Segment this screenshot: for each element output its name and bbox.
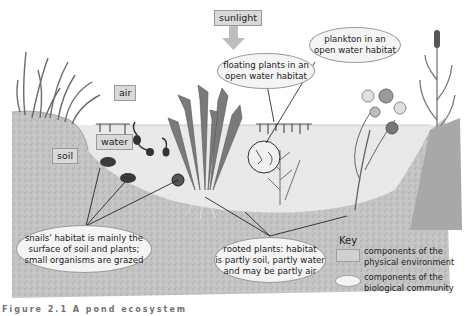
- key-physical-text: components of the physical environment: [364, 246, 454, 268]
- key-biological-swatch: [335, 275, 361, 287]
- snails-callout: snails' habitat is mainly the surface of…: [16, 225, 152, 273]
- key-title: Key: [339, 235, 357, 246]
- soil-label: soil: [52, 148, 78, 164]
- floating-plants-text: floating plants in an open water habitat: [223, 60, 309, 82]
- water-label: water: [96, 134, 133, 150]
- plankton-text: plankton in an open water habitat: [314, 34, 396, 56]
- sunlight-arrow: [222, 25, 245, 50]
- plankton-magnifier: [248, 141, 280, 173]
- key-physical-swatch: [336, 249, 360, 262]
- rooted-plants-text: rooted plants: habitat is partly soil, p…: [215, 244, 325, 277]
- plankton-callout: plankton in an open water habitat: [309, 27, 401, 63]
- figure-caption: Figure 2.1 A pond ecosystem: [2, 305, 187, 314]
- key-biological-text: components of the biological community: [364, 272, 454, 294]
- rooted-plants-callout: rooted plants: habitat is partly soil, p…: [214, 237, 326, 283]
- sunlight-label: sunlight: [214, 10, 262, 26]
- floating-plants-callout: floating plants in an open water habitat: [217, 53, 315, 89]
- air-label: air: [114, 85, 136, 101]
- snails-text: snails' habitat is mainly the surface of…: [24, 233, 143, 266]
